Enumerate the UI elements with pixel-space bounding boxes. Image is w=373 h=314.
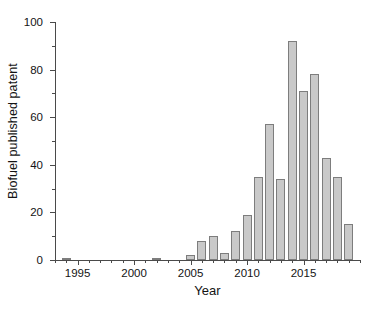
x-tick-major: [78, 260, 79, 265]
x-tick-major: [304, 260, 305, 265]
x-tick-minor: [157, 260, 158, 263]
y-tick-minor: [52, 141, 55, 142]
x-tick-minor: [55, 260, 56, 263]
y-tick-label: 40: [30, 159, 43, 171]
y-axis-line: [55, 22, 56, 260]
y-axis-title-text: Biofuel published patent: [6, 63, 20, 199]
y-tick-minor: [52, 46, 55, 47]
x-tick-minor: [315, 260, 316, 263]
y-tick-minor: [52, 93, 55, 94]
bar: [231, 231, 240, 260]
x-tick-minor: [202, 260, 203, 263]
x-tick-label: 1995: [65, 267, 91, 279]
x-tick-minor: [100, 260, 101, 263]
bar: [344, 224, 353, 260]
x-tick-label: 2015: [291, 267, 317, 279]
y-axis-title: Biofuel published patent: [0, 0, 26, 262]
bar: [243, 215, 252, 260]
x-tick-minor: [236, 260, 237, 263]
x-tick-minor: [270, 260, 271, 263]
plot-area: 020406080100 19952000200520102015: [55, 22, 360, 260]
y-tick-label: 0: [37, 254, 43, 266]
y-tick-major: 80: [50, 70, 55, 71]
x-tick-minor: [360, 260, 361, 263]
x-tick-label: 2010: [234, 267, 260, 279]
y-tick-minor: [52, 189, 55, 190]
x-tick-minor: [213, 260, 214, 263]
x-tick-minor: [258, 260, 259, 263]
y-tick-major: 60: [50, 117, 55, 118]
bar: [288, 41, 297, 260]
x-tick-major: [191, 260, 192, 265]
bar: [322, 158, 331, 260]
x-tick-minor: [123, 260, 124, 263]
y-tick-label: 60: [30, 111, 43, 123]
x-tick-minor: [281, 260, 282, 263]
bar: [254, 177, 263, 260]
bar: [276, 179, 285, 260]
x-tick-minor: [145, 260, 146, 263]
x-tick-minor: [292, 260, 293, 263]
bar: [265, 124, 274, 260]
x-tick-minor: [66, 260, 67, 263]
y-tick-label: 20: [30, 206, 43, 218]
x-tick-minor: [349, 260, 350, 263]
bar-chart-figure: Biofuel published patent 020406080100 19…: [0, 0, 373, 314]
x-tick-label: 2005: [178, 267, 204, 279]
y-tick-label: 100: [24, 16, 43, 28]
x-tick-minor: [89, 260, 90, 263]
bar: [310, 74, 319, 260]
x-tick-minor: [111, 260, 112, 263]
bar: [220, 253, 229, 260]
bar: [333, 177, 342, 260]
x-tick-minor: [179, 260, 180, 263]
x-tick-minor: [224, 260, 225, 263]
bar: [197, 241, 206, 260]
x-tick-minor: [337, 260, 338, 263]
y-tick-major: 40: [50, 165, 55, 166]
bar: [62, 258, 71, 260]
x-axis-title-text: Year: [194, 283, 220, 298]
bar: [299, 91, 308, 260]
y-tick-major: 100: [50, 22, 55, 23]
x-tick-major: [247, 260, 248, 265]
bar: [152, 258, 161, 260]
y-tick-minor: [52, 236, 55, 237]
x-tick-minor: [168, 260, 169, 263]
bar: [186, 255, 195, 260]
x-tick-major: [134, 260, 135, 265]
x-tick-label: 2000: [121, 267, 147, 279]
x-axis-title: Year: [55, 283, 360, 298]
x-tick-minor: [326, 260, 327, 263]
y-tick-major: 20: [50, 212, 55, 213]
y-tick-label: 80: [30, 64, 43, 76]
bar: [209, 236, 218, 260]
